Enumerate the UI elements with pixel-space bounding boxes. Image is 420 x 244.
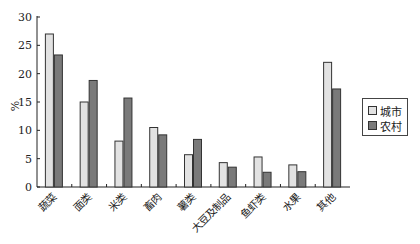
bar-city [80,102,88,187]
x-tick-label: 米类 [106,190,129,213]
x-tick-label: 畜肉 [141,191,164,214]
x-tick-label: 水果 [280,190,303,213]
y-tick-label: 20 [18,68,32,81]
y-tick-label: 25 [18,39,32,52]
y-tick-label: 10 [18,124,32,137]
x-tick-label: 蔬菜 [36,190,59,213]
bar-rural [263,172,271,187]
y-tick-label: 30 [18,11,32,24]
x-tick-label: 面类 [71,190,94,213]
x-tick-label: 其他 [314,190,337,213]
legend: 城市 农村 [362,98,408,136]
bar-rural [89,80,97,187]
y-tick-label: 5 [25,153,32,166]
legend-label-rural: 农村 [380,118,402,134]
bar-city [45,34,53,187]
grouped-bar-chart: 051015202530%蔬菜面类米类畜肉薯类大豆及制品鱼虾类水果其他 [0,0,420,244]
bar-city [289,165,297,187]
legend-item-city: 城市 [368,103,407,118]
bar-rural [124,98,132,187]
bar-rural [159,135,167,187]
bar-city [115,141,123,187]
bar-rural [298,172,306,187]
y-tick-label: 0 [25,181,32,194]
legend-swatch-rural [368,121,377,130]
bar-city [150,128,158,188]
bar-rural [54,55,62,187]
bar-city [254,157,262,187]
bar-city [324,62,332,187]
legend-item-rural: 农村 [368,118,407,133]
bar-city [185,155,193,187]
bar-rural [333,89,341,187]
bar-city [219,163,227,187]
x-tick-label: 薯类 [175,190,198,213]
bar-rural [194,139,202,187]
bar-rural [228,167,236,187]
legend-swatch-city [368,106,377,115]
legend-label-city: 城市 [380,103,402,119]
x-tick-label: 鱼虾类 [238,190,268,220]
y-axis-label: % [9,101,22,111]
